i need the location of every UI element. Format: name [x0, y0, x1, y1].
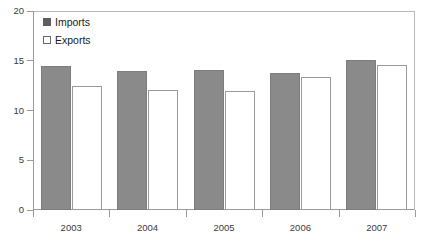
- legend-swatch-exports-icon: [43, 36, 51, 44]
- bar-imports-2006[interactable]: [270, 73, 300, 210]
- bar-imports-2003[interactable]: [41, 66, 71, 210]
- x-axis-tick: [415, 210, 416, 217]
- x-axis-tick-label: 2005: [213, 222, 234, 233]
- bar-exports-2004[interactable]: [148, 90, 178, 210]
- y-axis-tick: [27, 11, 34, 12]
- y-axis-tick-label: 10: [2, 106, 24, 116]
- x-axis-tick: [262, 210, 263, 217]
- legend-label-imports: Imports: [55, 17, 90, 28]
- y-axis-tick-label: 20: [2, 6, 24, 16]
- y-axis-tick: [27, 110, 34, 111]
- x-axis-tick: [339, 210, 340, 217]
- y-axis-tick: [27, 160, 34, 161]
- bar-chart: 05101520 20032004200520062007 Imports Ex…: [0, 0, 430, 241]
- bar-imports-2005[interactable]: [194, 70, 224, 210]
- x-axis-tick-label: 2003: [61, 222, 82, 233]
- legend-swatch-imports-icon: [43, 18, 51, 26]
- x-axis-tick-label: 2006: [290, 222, 311, 233]
- bar-imports-2007[interactable]: [346, 60, 376, 210]
- y-axis-tick-label: 15: [2, 56, 24, 66]
- legend-item-imports[interactable]: Imports: [43, 14, 91, 30]
- legend-label-exports: Exports: [55, 35, 91, 46]
- bar-exports-2005[interactable]: [225, 91, 255, 210]
- y-axis-tick-label: 0: [2, 205, 24, 215]
- bar-imports-2004[interactable]: [117, 71, 147, 210]
- bar-exports-2003[interactable]: [72, 86, 102, 210]
- y-axis-tick-label: 5: [2, 156, 24, 166]
- bar-exports-2007[interactable]: [377, 65, 407, 210]
- legend-item-exports[interactable]: Exports: [43, 32, 91, 48]
- x-axis-tick: [109, 210, 110, 217]
- bar-exports-2006[interactable]: [301, 77, 331, 210]
- y-axis-tick: [27, 60, 34, 61]
- x-axis-tick-label: 2004: [137, 222, 158, 233]
- chart-legend: Imports Exports: [43, 14, 91, 50]
- x-axis-tick-label: 2007: [366, 222, 387, 233]
- x-axis-tick: [186, 210, 187, 217]
- x-axis-tick: [33, 210, 34, 217]
